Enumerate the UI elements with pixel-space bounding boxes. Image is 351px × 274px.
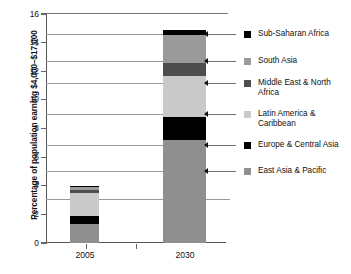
bar-segment-sub-saharan-africa[interactable] <box>163 30 206 36</box>
y-label-0: 0 <box>24 238 39 248</box>
legend-leader-line <box>206 61 236 62</box>
y-tick-8 <box>41 128 47 129</box>
y-label-4: 4 <box>24 180 39 190</box>
bar-segment-sub-saharan-africa[interactable] <box>70 186 99 187</box>
legend-swatch <box>244 111 251 118</box>
bar-segment-middle-east-north-africa[interactable] <box>163 63 206 76</box>
y-label-16: 16 <box>24 9 39 19</box>
legend-arrow-icon <box>204 31 208 37</box>
x-tick-mid <box>136 244 137 249</box>
legend-arrow-icon <box>204 111 208 117</box>
legend-swatch <box>244 80 251 87</box>
legend-arrow-icon <box>204 142 208 148</box>
bar-segment-east-asia-pacific[interactable] <box>70 224 99 243</box>
legend-swatch <box>244 31 251 38</box>
y-label-6: 6 <box>24 152 39 162</box>
legend-swatch <box>244 142 251 149</box>
bar-segment-east-asia-pacific[interactable] <box>163 140 206 243</box>
y-tick-0 <box>41 242 47 243</box>
legend-arrow-icon <box>204 168 208 174</box>
legend-leader-line <box>206 145 236 146</box>
y-label-8: 8 <box>24 123 39 133</box>
bar-2030[interactable] <box>163 0 206 274</box>
legend-arrow-icon <box>204 80 208 86</box>
bar-segment-latin-america-caribbean[interactable] <box>70 193 99 216</box>
x-label-2005: 2005 <box>55 250 115 260</box>
bar-segment-south-asia[interactable] <box>163 35 206 62</box>
bar-segment-europe-central-asia[interactable] <box>70 216 99 225</box>
y-label-14: 14 <box>24 37 39 47</box>
bar-segment-latin-america-caribbean[interactable] <box>163 76 206 118</box>
y-tick-14 <box>41 42 47 43</box>
y-label-10: 10 <box>24 94 39 104</box>
legend-swatch <box>244 58 251 65</box>
y-tick-6 <box>41 157 47 158</box>
bar-segment-middle-east-north-africa[interactable] <box>70 190 99 193</box>
legend-label: South Asia <box>258 56 344 66</box>
bar-segment-europe-central-asia[interactable] <box>163 117 206 140</box>
legend-leader-line <box>206 83 236 84</box>
y-tick-10 <box>41 99 47 100</box>
y-tick-12 <box>41 71 47 72</box>
legend-leader-line <box>206 171 236 172</box>
bar-segment-south-asia[interactable] <box>70 187 99 190</box>
y-label-2: 2 <box>24 209 39 219</box>
y-tick-16 <box>41 13 47 14</box>
bar-2005[interactable] <box>70 0 99 274</box>
legend-swatch <box>244 168 251 175</box>
legend-leader-line <box>206 34 236 35</box>
legend-leader-line <box>206 114 236 115</box>
legend-label: Middle East & North Africa <box>258 78 344 97</box>
legend-arrow-icon <box>204 58 208 64</box>
y-tick-4 <box>41 185 47 186</box>
legend-label: Sub-Saharan Africa <box>258 29 344 39</box>
x-tick-2005 <box>86 244 87 249</box>
y-tick-2 <box>41 214 47 215</box>
x-label-2030: 2030 <box>155 250 215 260</box>
legend: Sub-Saharan AfricaSouth AsiaMiddle East … <box>228 0 351 274</box>
legend-label: Europe & Central Asia <box>258 140 344 150</box>
y-label-12: 12 <box>24 66 39 76</box>
stacked-bar-chart: Percentage of population earning $4,000–… <box>0 0 351 274</box>
legend-label: East Asia & Pacific <box>258 166 344 176</box>
legend-label: Latin America & Caribbean <box>258 109 344 128</box>
